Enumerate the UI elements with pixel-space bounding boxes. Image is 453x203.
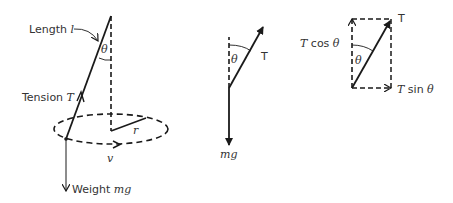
resultant-label: T xyxy=(397,12,405,25)
angle-arc xyxy=(99,58,111,60)
tension-label: T xyxy=(260,50,268,63)
weight-label: mg xyxy=(220,148,237,161)
tension-label: Tension T xyxy=(21,91,76,104)
angle-theta-label: θ xyxy=(231,53,238,66)
angle-theta-label: θ xyxy=(355,54,362,67)
vertical-component-label: T cos θ xyxy=(300,37,340,50)
angle-arc xyxy=(352,45,373,51)
velocity-label: v xyxy=(107,152,114,165)
weight-label: Weight mg xyxy=(72,183,131,196)
horizontal-component-label: T sin θ xyxy=(397,83,434,96)
vector-components-diagram: θ T T cos θ T sin θ xyxy=(300,12,434,96)
free-body-diagram: θ T mg xyxy=(220,27,268,161)
length-label: Length l xyxy=(29,23,74,36)
conical-pendulum-diagram: θ v r Length l Tension T Weight mg xyxy=(21,16,168,196)
angle-theta-label: θ xyxy=(101,43,108,56)
length-pointer-arrow xyxy=(74,29,98,41)
conical-pendulum-figure: θ v r Length l Tension T Weight mg θ xyxy=(0,0,453,203)
angle-arc xyxy=(229,45,251,51)
radius-line xyxy=(111,118,146,131)
radius-label: r xyxy=(133,124,139,137)
